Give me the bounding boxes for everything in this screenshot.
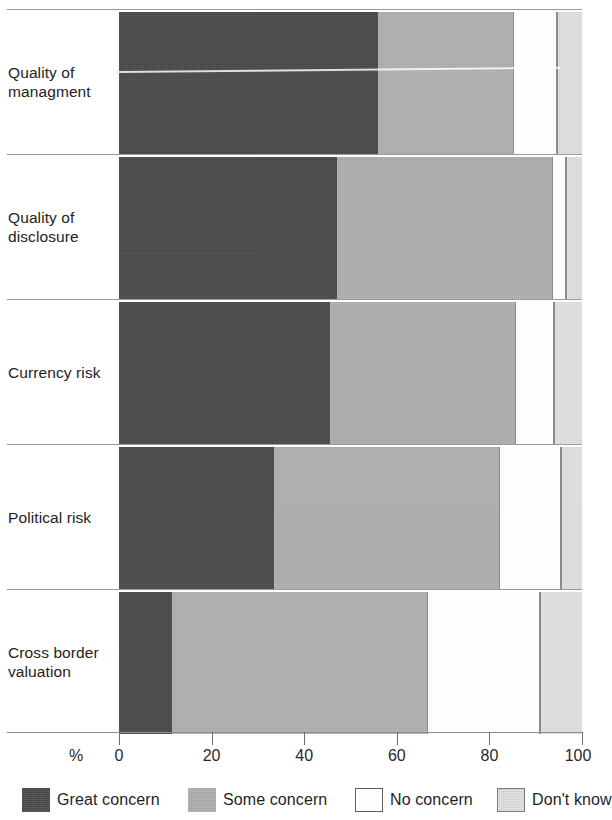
row-label-line1: Cross border xyxy=(8,643,112,662)
legend-item-dont-know[interactable]: Don't know xyxy=(497,787,612,813)
x-axis-tick-label: 100 xyxy=(565,747,592,765)
stacked-bar xyxy=(119,12,582,154)
legend-label-dont-know: Don't know xyxy=(532,791,612,809)
row-label-political-risk: Political risk xyxy=(8,507,112,526)
row-label-line2: disclosure xyxy=(8,227,112,246)
row-separator xyxy=(7,444,582,445)
legend-swatch-great-concern-icon xyxy=(22,788,50,812)
stacked-bar xyxy=(119,592,582,734)
bar-segment-great-concern xyxy=(119,302,330,444)
bar-segment-some-concern xyxy=(378,12,512,154)
x-axis-tick xyxy=(582,732,583,745)
row-label-quality-of-managment: Quality of managment xyxy=(8,63,112,101)
legend-label-great-concern: Great concern xyxy=(57,791,160,809)
row-separator xyxy=(7,154,582,155)
x-axis-tick xyxy=(304,732,305,745)
row-label-cross-border-valuation: Cross border valuation xyxy=(8,643,112,681)
chart-row-quality-of-managment: Quality of managment xyxy=(0,9,600,154)
x-axis: 0 20 40 60 80 100 xyxy=(0,732,600,772)
bar-segment-no-concern xyxy=(499,447,562,589)
legend-swatch-dont-know-icon xyxy=(497,788,525,812)
bar-segment-dont-know xyxy=(566,157,582,299)
bar-segment-some-concern xyxy=(330,302,515,444)
bar-segment-some-concern xyxy=(172,592,427,734)
chart-row-political-risk: Political risk xyxy=(0,444,600,589)
bar-segment-no-concern xyxy=(513,12,557,154)
legend-swatch-some-concern-icon xyxy=(188,788,216,812)
legend-item-no-concern[interactable]: No concern xyxy=(355,787,473,813)
x-axis-tick xyxy=(397,732,398,745)
row-label-currency-risk: Currency risk xyxy=(8,362,112,381)
x-axis-line xyxy=(7,732,582,733)
chart-row-cross-border-valuation: Cross border valuation xyxy=(0,589,600,734)
chart-legend: Great concern Some concern No concern Do… xyxy=(0,787,600,815)
bar-segment-some-concern xyxy=(337,157,552,299)
x-axis-tick xyxy=(489,732,490,745)
bar-segment-dont-know xyxy=(561,447,582,589)
bar-segment-dont-know xyxy=(540,592,582,734)
stacked-bar xyxy=(119,302,582,444)
bar-segment-no-concern xyxy=(427,592,540,734)
x-axis-tick-label: 60 xyxy=(388,747,406,765)
legend-label-some-concern: Some concern xyxy=(223,791,327,809)
bar-segment-dont-know xyxy=(554,302,582,444)
chart-row-quality-of-disclosure: Quality of disclosure xyxy=(0,154,600,299)
stacked-bar xyxy=(119,157,582,299)
plot-area: Quality of managment Quality of disclosu… xyxy=(0,9,600,732)
x-axis-tick-label: 40 xyxy=(295,747,313,765)
bar-segment-no-concern xyxy=(515,302,554,444)
bar-segment-great-concern xyxy=(119,157,337,299)
legend-swatch-no-concern-icon xyxy=(355,788,383,812)
x-axis-tick-label: 0 xyxy=(115,747,124,765)
row-label-line2: managment xyxy=(8,82,112,101)
x-axis-unit-label: % xyxy=(69,747,83,765)
legend-item-some-concern[interactable]: Some concern xyxy=(188,787,327,813)
chart-row-currency-risk: Currency risk xyxy=(0,299,600,444)
row-separator xyxy=(7,9,582,10)
x-axis-tick-label: 20 xyxy=(203,747,221,765)
row-label-line2: valuation xyxy=(8,662,112,681)
legend-label-no-concern: No concern xyxy=(390,791,473,809)
x-axis-tick-label: 80 xyxy=(480,747,498,765)
bar-segment-great-concern xyxy=(119,447,274,589)
bar-segment-great-concern xyxy=(119,12,378,154)
row-label-line1: Quality of xyxy=(8,63,112,82)
row-separator xyxy=(7,589,582,590)
x-axis-tick xyxy=(212,732,213,745)
row-separator xyxy=(7,299,582,300)
bar-segment-no-concern xyxy=(552,157,566,299)
bar-segment-great-concern xyxy=(119,592,172,734)
row-label-line1: Political risk xyxy=(8,507,112,526)
bar-segment-dont-know xyxy=(557,12,582,154)
row-label-line1: Currency risk xyxy=(8,362,112,381)
legend-item-great-concern[interactable]: Great concern xyxy=(22,787,160,813)
row-label-line1: Quality of xyxy=(8,208,112,227)
bar-segment-some-concern xyxy=(274,447,499,589)
row-label-quality-of-disclosure: Quality of disclosure xyxy=(8,208,112,246)
stacked-bar xyxy=(119,447,582,589)
x-axis-tick xyxy=(119,732,120,745)
